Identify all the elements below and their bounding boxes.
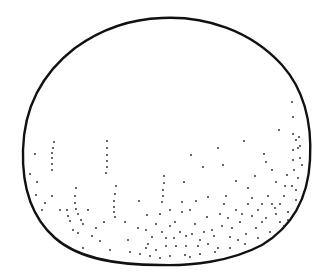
- stipple-dot: [95, 227, 97, 229]
- stipple-dot: [165, 237, 167, 239]
- stipple-dot: [219, 213, 221, 215]
- stipple-dot: [99, 240, 101, 242]
- stipple-dot: [229, 236, 231, 238]
- stipple-dot: [74, 202, 76, 204]
- stipple-dot: [51, 163, 53, 165]
- stipple-dot: [237, 239, 239, 241]
- stipple-dot: [106, 147, 108, 149]
- stipple-dot: [91, 235, 93, 237]
- stipple-dot: [292, 133, 294, 135]
- stipple-dot: [159, 257, 161, 259]
- stipple-dot: [145, 229, 147, 231]
- stipple-dot: [127, 239, 129, 241]
- stipple-dot: [113, 206, 115, 208]
- stipple-dot: [241, 213, 243, 215]
- stipple-dot: [194, 223, 196, 225]
- stipple-dot: [36, 181, 38, 183]
- stipple-dot: [189, 209, 191, 211]
- stipple-dot: [245, 233, 247, 235]
- stipple-dot: [163, 182, 165, 184]
- stipple-dot: [243, 140, 245, 142]
- stipple-dot: [87, 209, 89, 211]
- stipple-dot: [51, 169, 53, 171]
- stipple-dot: [174, 221, 176, 223]
- stipple-dot: [51, 152, 53, 154]
- stipple-dot: [184, 254, 186, 256]
- stipple-dot: [181, 201, 183, 203]
- stipple-dot: [72, 229, 74, 231]
- stipple-dot: [286, 174, 288, 176]
- stipple-dot: [195, 200, 197, 202]
- stipple-dot: [214, 251, 216, 253]
- stipple-dot: [206, 216, 208, 218]
- stipple-dot: [185, 235, 187, 237]
- stipple-dot: [191, 233, 193, 235]
- stipple-dot: [222, 164, 224, 166]
- stipple-dot: [225, 195, 227, 197]
- stipple-dot: [283, 195, 285, 197]
- stipple-dot: [105, 172, 107, 174]
- stipple-dot: [287, 219, 289, 221]
- stipple-dot: [269, 231, 271, 233]
- stipple-dot: [271, 169, 273, 171]
- stipple-dot: [185, 245, 187, 247]
- stipple-dot: [137, 227, 139, 229]
- stipple-dot: [44, 202, 46, 204]
- stipple-dot: [66, 209, 68, 211]
- stipple-dot: [275, 213, 277, 215]
- stipple-dot: [139, 253, 141, 255]
- stipple-dot: [261, 203, 263, 205]
- stipple-dot: [247, 187, 249, 189]
- stipple-dot: [301, 164, 303, 166]
- stipple-dot: [254, 175, 256, 177]
- stipple-dot: [284, 185, 286, 187]
- stipple-dot: [279, 203, 281, 205]
- stipple-dot: [162, 195, 164, 197]
- stipple-dot: [297, 177, 299, 179]
- stipple-dot: [161, 231, 163, 233]
- stipple-dot: [149, 255, 151, 257]
- stipple-dot: [267, 195, 269, 197]
- stipple-dot: [165, 245, 167, 247]
- stipple-dot: [291, 101, 293, 103]
- sphere-outline: [23, 18, 310, 265]
- stipple-dot: [227, 217, 229, 219]
- stipple-dot: [283, 225, 285, 227]
- stipple-dot: [52, 147, 54, 149]
- stipple-dot: [257, 237, 259, 239]
- stipple-dot: [138, 200, 140, 202]
- stipple-dot: [299, 157, 301, 159]
- stipple-dot: [124, 221, 126, 223]
- stipple-dot: [244, 243, 246, 245]
- stipple-dot: [275, 181, 277, 183]
- stipple-dot: [295, 189, 297, 191]
- stipple-dot: [29, 173, 31, 175]
- stipple-dot: [145, 247, 147, 249]
- stipple-dot: [202, 166, 204, 168]
- stipple-dot: [69, 220, 71, 222]
- stipple-dot: [203, 231, 205, 233]
- stipple-dot: [217, 247, 219, 249]
- stipple-dot: [181, 211, 183, 213]
- stipple-dot: [299, 145, 301, 147]
- stipple-dot: [77, 213, 79, 215]
- stipple-dot: [82, 247, 84, 249]
- stipple-dot: [147, 243, 149, 245]
- stipple-dot: [106, 166, 108, 168]
- stipple-dot: [51, 157, 53, 159]
- stipple-dot: [162, 189, 164, 191]
- stipple-dot: [113, 200, 115, 202]
- stipple-dot: [251, 197, 253, 199]
- stipple-dot: [114, 193, 116, 195]
- stipple-dot: [278, 129, 280, 131]
- stipple-dot: [74, 195, 76, 197]
- stipple-dot: [263, 153, 265, 155]
- stipple-dot: [213, 235, 215, 237]
- stipple-dot: [82, 223, 84, 225]
- stipple-dot: [155, 223, 157, 225]
- stipple-dot: [217, 147, 219, 149]
- stipple-dot: [221, 225, 223, 227]
- stipple-dot: [261, 221, 263, 223]
- stipple-dot: [297, 147, 299, 149]
- stipple-dot: [53, 141, 55, 143]
